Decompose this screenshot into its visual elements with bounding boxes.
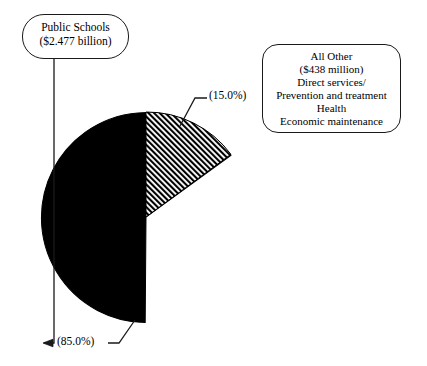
callout-all-other-item-direct-services: Direct services/ (263, 76, 400, 89)
callout-all-other-item-economic-maintenance: Economic maintenance (263, 115, 400, 128)
data-label-slice-all-other: (15.0%) (209, 89, 246, 101)
callout-public-schools-amount: ($2.477 billion) (23, 35, 128, 49)
callout-all-other-amount: ($438 million) (263, 63, 400, 76)
callout-all-other-item-prevention: Prevention and treatment (263, 89, 400, 102)
leader-line-slice-other (180, 98, 207, 126)
callout-all-other-title: All Other (263, 50, 400, 63)
leader-line-slice-schools (108, 320, 135, 343)
data-label-slice-public-schools: (85.0%) (57, 335, 94, 347)
leader-arrowhead-public-schools (43, 339, 53, 347)
callout-public-schools: Public Schools ($2.477 billion) (22, 14, 129, 59)
pie-chart-figure: Public Schools ($2.477 billion) All Othe… (0, 0, 427, 366)
callout-public-schools-title: Public Schools (23, 21, 128, 35)
leader-line-public-schools (44, 59, 54, 343)
callout-all-other: All Other ($438 million) Direct services… (262, 44, 401, 133)
callout-all-other-item-health: Health (263, 102, 400, 115)
